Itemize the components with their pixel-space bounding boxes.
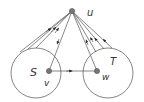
label-u: u	[87, 7, 93, 18]
node-u	[69, 8, 74, 13]
edges-t-to-u	[72, 11, 112, 71]
node-v	[46, 68, 51, 73]
label-set-s: S	[30, 66, 37, 79]
node-w	[94, 68, 99, 73]
label-w: w	[102, 72, 110, 82]
label-set-t: T	[110, 56, 117, 67]
graph-diagram: u v w S T	[0, 0, 144, 102]
label-v: v	[44, 78, 50, 88]
